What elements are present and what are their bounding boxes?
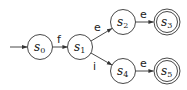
state-s4: s4 — [111, 59, 136, 84]
transition-label-s1-s4: i — [93, 60, 96, 73]
state-s0: s0 — [28, 35, 53, 60]
transition-label-s2-s3: e — [140, 8, 147, 21]
transition-label-s4-s5: e — [140, 57, 147, 70]
transition-label-s0-s1: f — [57, 33, 62, 46]
state-s5-accepting: s5 — [154, 58, 180, 84]
fsa-diagram: f e e i e s0 s1 s2 s3 s4 s5 — [0, 0, 187, 90]
transition-label-s1-s2: e — [94, 21, 101, 34]
state-s1: s1 — [68, 35, 93, 60]
state-s2: s2 — [111, 10, 136, 35]
state-s3-accepting: s3 — [154, 9, 180, 35]
